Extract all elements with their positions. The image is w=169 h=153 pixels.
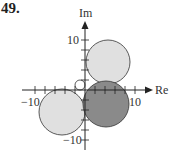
im-axis-label: Im	[79, 6, 93, 20]
im-axis-arrow-icon	[82, 21, 89, 29]
dark-circle	[83, 81, 129, 127]
lower-left-circle	[39, 89, 85, 135]
re-axis-label: Re	[155, 83, 168, 97]
upper-circle	[86, 40, 130, 84]
complex-plane-diagram: Im Re −10 10 10 −10	[0, 0, 169, 153]
x-tick-label-neg10: −10	[21, 95, 40, 109]
small-circle	[75, 80, 85, 90]
y-tick-label-10: 10	[67, 33, 79, 47]
x-tick-label-10: 10	[129, 95, 141, 109]
re-axis-arrow-icon	[145, 87, 153, 94]
y-tick-label-neg10: −10	[63, 133, 82, 147]
